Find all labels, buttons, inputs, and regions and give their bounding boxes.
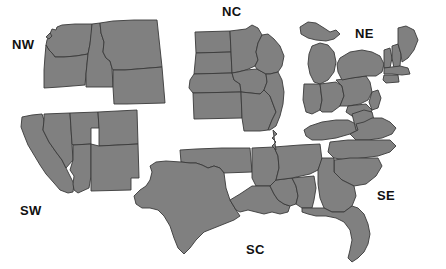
state-utah xyxy=(70,112,99,145)
region-shape-sw[interactable] xyxy=(21,110,139,193)
state-colorado xyxy=(98,110,138,146)
region-label-nc: NC xyxy=(222,5,241,19)
state-maine xyxy=(398,26,418,62)
region-shape-nc[interactable] xyxy=(189,25,284,131)
state-south-dakota xyxy=(194,52,232,74)
state-massachusetts xyxy=(384,66,410,75)
state-michigan-upper-peninsula xyxy=(300,22,340,41)
state-texas xyxy=(134,161,240,254)
region-label-sw: SW xyxy=(20,204,42,218)
region-label-sc: SC xyxy=(246,243,265,257)
state-tennessee xyxy=(274,144,322,180)
state-connecticut-rhode-island xyxy=(383,75,399,83)
state-kansas xyxy=(193,92,242,119)
state-kentucky xyxy=(304,120,358,140)
state-arkansas xyxy=(252,147,279,186)
state-north-carolina xyxy=(328,140,396,160)
region-label-ne: NE xyxy=(355,27,374,41)
state-florida xyxy=(302,206,370,262)
regions-map-graphic xyxy=(0,0,446,269)
state-ohio xyxy=(320,82,344,112)
region-shape-sc[interactable] xyxy=(134,130,322,254)
us-census-regions-map: NW SW NC SC NE SE xyxy=(0,0,446,269)
state-arizona xyxy=(70,144,91,193)
state-washington xyxy=(46,24,92,57)
region-shape-nw[interactable] xyxy=(44,20,165,104)
state-indiana xyxy=(303,84,322,114)
state-new-mexico xyxy=(91,144,139,191)
region-label-se: SE xyxy=(377,189,395,203)
region-label-nw: NW xyxy=(12,38,34,52)
state-north-dakota xyxy=(195,31,231,53)
state-wyoming xyxy=(113,67,165,104)
state-vermont xyxy=(384,48,392,68)
state-new-york xyxy=(337,50,384,80)
state-wisconsin xyxy=(255,34,284,74)
state-michigan xyxy=(308,43,336,84)
